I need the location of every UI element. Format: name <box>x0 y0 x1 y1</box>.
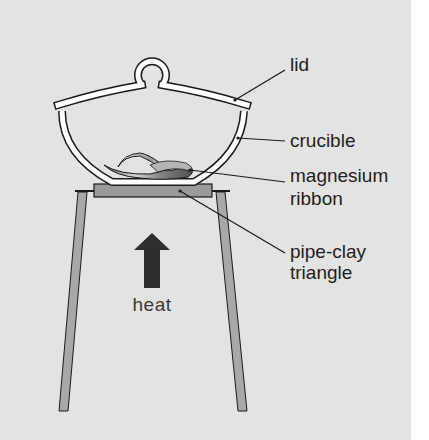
diagram-canvas: lid crucible magnesium ribbon pipe-clay … <box>0 0 429 440</box>
label-triangle-line1: pipe-clay <box>290 241 367 262</box>
label-lid: lid <box>290 54 309 75</box>
label-magnesium-line1: magnesium <box>290 165 388 186</box>
label-crucible: crucible <box>290 130 355 151</box>
label-heat: heat <box>133 294 172 315</box>
crucible-apparatus-diagram: lid crucible magnesium ribbon pipe-clay … <box>0 0 429 440</box>
label-triangle-line2: triangle <box>290 262 352 283</box>
background-panel <box>0 0 411 440</box>
label-magnesium-line2: ribbon <box>290 188 343 209</box>
